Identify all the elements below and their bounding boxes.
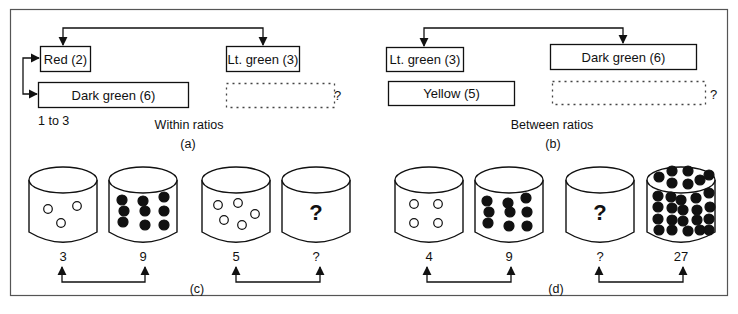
panel-b-label: (b) bbox=[545, 137, 560, 151]
ratio-box-unknown bbox=[227, 84, 335, 108]
pair-arrows bbox=[62, 267, 683, 282]
open-dot bbox=[73, 202, 82, 211]
filled-dot bbox=[676, 195, 686, 205]
box-label: Dark green (6) bbox=[72, 88, 156, 103]
unknown-box-outline bbox=[553, 82, 706, 105]
pair-arrow-1 bbox=[62, 267, 145, 282]
filled-dot bbox=[667, 225, 677, 235]
box-label: Red (2) bbox=[44, 52, 87, 67]
filled-dot bbox=[140, 220, 150, 230]
open-dot bbox=[434, 200, 443, 209]
cylinder-d-1: 4 bbox=[395, 167, 463, 264]
pair-arrow-2 bbox=[236, 267, 320, 282]
panel-c-label: (c) bbox=[190, 282, 205, 296]
panel-a-boxes: Red (2)Dark green (6)Lt. green (3) bbox=[39, 47, 335, 108]
filled-dot bbox=[504, 221, 514, 231]
open-dot bbox=[434, 219, 443, 228]
panel-b-connectors bbox=[424, 28, 623, 46]
panel-b-unknown-mark: ? bbox=[710, 87, 717, 102]
open-dot bbox=[251, 210, 260, 219]
filled-dot bbox=[119, 206, 129, 216]
ratio-figure: Red (2)Dark green (6)Lt. green (3) Lt. g… bbox=[0, 0, 738, 314]
pair-arrow-3 bbox=[427, 267, 511, 282]
filled-dot bbox=[667, 203, 677, 213]
filled-dot bbox=[521, 193, 531, 203]
cylinder-top bbox=[109, 167, 177, 193]
box-label: Yellow (5) bbox=[423, 86, 480, 101]
filled-dot bbox=[484, 207, 494, 217]
filled-dot bbox=[159, 220, 169, 230]
panel-b-boxes: Lt. green (3)Yellow (5)Dark green (6) bbox=[387, 45, 706, 106]
filled-dot bbox=[140, 206, 150, 216]
filled-dot bbox=[483, 218, 493, 228]
filled-dot bbox=[654, 225, 664, 235]
open-dot bbox=[57, 219, 66, 228]
filled-dot bbox=[704, 225, 714, 235]
filled-dot bbox=[692, 205, 702, 215]
box-label: Dark green (6) bbox=[582, 50, 666, 65]
filled-dot bbox=[505, 207, 515, 217]
cylinder-top bbox=[282, 167, 350, 193]
filled-dot bbox=[667, 215, 677, 225]
open-dot bbox=[234, 199, 243, 208]
within-ratio-top-arrow bbox=[63, 28, 263, 45]
cylinder-top bbox=[395, 167, 463, 193]
cylinder-count-label: 27 bbox=[674, 249, 688, 264]
ratio-box-lt-green: Lt. green (3) bbox=[387, 48, 464, 72]
filled-dot bbox=[678, 205, 688, 215]
filled-dot bbox=[667, 166, 677, 176]
filled-dot bbox=[482, 196, 492, 206]
filled-dot bbox=[678, 216, 688, 226]
cylinder-c-3: 5 bbox=[202, 167, 270, 264]
filled-dot bbox=[159, 192, 169, 202]
panel-a-label: (a) bbox=[180, 137, 195, 151]
cylinder-top bbox=[29, 167, 97, 193]
cylinder-count-label: 9 bbox=[505, 249, 512, 264]
panel-b-title: Between ratios bbox=[511, 118, 594, 132]
open-dot bbox=[410, 200, 419, 209]
filled-dot bbox=[654, 172, 664, 182]
filled-dot bbox=[118, 217, 128, 227]
ratio-box-yellow: Yellow (5) bbox=[389, 82, 515, 106]
cylinder-count-label: ? bbox=[596, 249, 603, 264]
filled-dot bbox=[503, 198, 513, 208]
cylinder-count-label: 5 bbox=[232, 249, 239, 264]
filled-dot bbox=[683, 226, 693, 236]
panel-c-cylinders: 395?? bbox=[29, 167, 350, 264]
filled-dot bbox=[667, 178, 677, 188]
ratio-box-dark-green: Dark green (6) bbox=[39, 83, 189, 108]
ratio-diagram-canvas: Red (2)Dark green (6)Lt. green (3) Lt. g… bbox=[0, 0, 738, 314]
ratio-note: 1 to 3 bbox=[38, 114, 69, 128]
unknown-quantity-mark: ? bbox=[593, 200, 606, 225]
between-ratio-top-arrow bbox=[424, 28, 623, 46]
cylinder-c-4: ?? bbox=[282, 167, 350, 264]
filled-dot bbox=[704, 188, 714, 198]
filled-dot bbox=[691, 193, 701, 203]
cylinder-top bbox=[475, 167, 543, 193]
open-dot bbox=[410, 219, 419, 228]
ratio-box-red: Red (2) bbox=[41, 47, 91, 72]
cylinder-count-label: 4 bbox=[425, 249, 432, 264]
filled-dot bbox=[117, 195, 127, 205]
ratio-box-lt-green: Lt. green (3) bbox=[227, 47, 300, 72]
filled-dot bbox=[522, 221, 532, 231]
panel-a-unknown-mark: ? bbox=[334, 88, 341, 103]
filled-dot bbox=[522, 207, 532, 217]
filled-dot bbox=[138, 196, 148, 206]
panel-d-label: (d) bbox=[548, 282, 563, 296]
filled-dot bbox=[704, 170, 714, 180]
filled-dot bbox=[666, 192, 676, 202]
pair-arrow-4 bbox=[599, 267, 683, 282]
cylinder-count-label: 3 bbox=[59, 249, 66, 264]
cylinder-top bbox=[566, 167, 634, 193]
ratio-box-unknown bbox=[553, 82, 706, 105]
filled-dot bbox=[683, 166, 693, 176]
cylinder-d-3: ?? bbox=[566, 167, 634, 264]
box-label: Lt. green (3) bbox=[390, 52, 461, 67]
cylinder-count-label: ? bbox=[312, 249, 319, 264]
cylinder-d-4: 27 bbox=[647, 166, 715, 264]
ratio-box-dark-green: Dark green (6) bbox=[551, 45, 697, 70]
filled-dot bbox=[159, 206, 169, 216]
cylinder-c-2: 9 bbox=[109, 167, 177, 264]
filled-dot bbox=[653, 202, 663, 212]
